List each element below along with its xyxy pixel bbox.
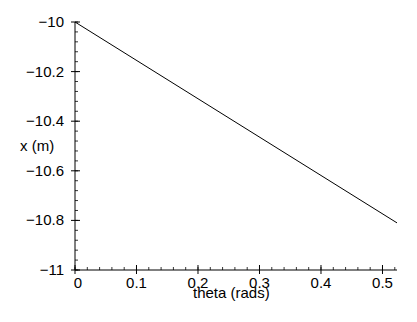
- x-axis-label: theta (rads): [193, 284, 270, 301]
- minor-ticks: [75, 22, 395, 270]
- y-tick-label: −10.6: [26, 162, 64, 179]
- line-chart: −10−10.2−10.4−10.6−10.8−11 00.10.20.30.4…: [0, 0, 417, 322]
- y-tick-label: −10.8: [26, 211, 64, 228]
- x-tick-label: 0.5: [372, 274, 393, 291]
- y-tick-label: −10.2: [26, 63, 64, 80]
- y-tick-label: −11: [40, 261, 64, 278]
- x-tick-label: 0: [74, 274, 82, 291]
- y-axis-label: x (m): [20, 137, 54, 154]
- data-series: [75, 22, 397, 223]
- x-tick-label: 0.4: [311, 274, 332, 291]
- y-tick-label: −10: [39, 13, 64, 30]
- y-tick-label: −10.4: [26, 112, 64, 129]
- x-tick-label: 0.1: [126, 274, 147, 291]
- axes: [75, 22, 397, 270]
- series-line: [75, 22, 397, 223]
